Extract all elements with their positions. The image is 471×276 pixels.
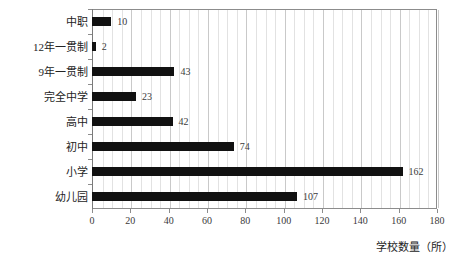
bar <box>92 17 111 26</box>
bar-value-label: 42 <box>179 117 189 127</box>
x-axis-title: 学校数量（所） <box>0 241 471 254</box>
x-axis-tick-label: 140 <box>353 215 368 226</box>
x-axis-tick <box>284 209 285 213</box>
bar <box>92 117 173 126</box>
y-axis-tick-label: 9年一贯制 <box>2 66 88 78</box>
bar-value-label: 2 <box>102 42 107 52</box>
x-axis-tick <box>130 209 131 213</box>
x-axis-tick-label: 80 <box>240 215 250 226</box>
y-axis-tick-label: 小学 <box>2 166 88 178</box>
bar-value-label: 162 <box>409 167 424 177</box>
x-axis-tick-label: 40 <box>164 215 174 226</box>
x-axis-tick-label: 60 <box>202 215 212 226</box>
y-axis-tick-label: 高中 <box>2 116 88 128</box>
gridline-major <box>438 10 439 208</box>
bar-value-label: 43 <box>180 67 190 77</box>
bar-row: 42 <box>92 117 437 127</box>
y-axis-tick <box>88 109 92 110</box>
bar-row: 2 <box>92 42 437 52</box>
bar-value-label: 74 <box>240 142 250 152</box>
y-axis-tick <box>88 184 92 185</box>
x-axis-tick <box>92 209 93 213</box>
bar-row: 43 <box>92 67 437 77</box>
y-axis-tick <box>88 134 92 135</box>
y-axis-labels: 中职12年一贯制9年一贯制完全中学高中初中小学幼儿园 <box>0 9 88 209</box>
y-axis-tick-label: 完全中学 <box>2 91 88 103</box>
bars-layer: 10243234274162107 <box>92 9 437 209</box>
x-axis-tick <box>399 209 400 213</box>
bar-row: 10 <box>92 17 437 27</box>
bar <box>92 42 96 51</box>
x-axis-tick <box>360 209 361 213</box>
x-axis-tick <box>322 209 323 213</box>
y-axis-tick-label: 幼儿园 <box>2 191 88 203</box>
y-axis-tick <box>88 159 92 160</box>
bar-row: 74 <box>92 142 437 152</box>
y-axis-tick <box>88 9 92 10</box>
x-axis-tick-label: 20 <box>125 215 135 226</box>
y-axis-tick <box>88 59 92 60</box>
bar-value-label: 107 <box>303 192 318 202</box>
y-axis-tick <box>88 84 92 85</box>
bar-value-label: 23 <box>142 92 152 102</box>
bar-row: 23 <box>92 92 437 102</box>
x-axis-tick-label: 100 <box>276 215 291 226</box>
x-axis-tick <box>169 209 170 213</box>
x-axis-tick-label: 0 <box>90 215 95 226</box>
bar-row: 107 <box>92 192 437 202</box>
x-axis-tick <box>207 209 208 213</box>
y-axis-tick-label: 中职 <box>2 16 88 28</box>
y-axis-tick-label: 初中 <box>2 141 88 153</box>
y-axis-tick-label: 12年一贯制 <box>2 41 88 53</box>
x-axis-tick <box>437 209 438 213</box>
bar-row: 162 <box>92 167 437 177</box>
bar <box>92 142 234 151</box>
x-axis-tick-label: 160 <box>391 215 406 226</box>
x-axis-tick <box>245 209 246 213</box>
bar-chart: 中职12年一贯制9年一贯制完全中学高中初中小学幼儿园 1024323427416… <box>0 0 471 276</box>
bar-value-label: 10 <box>117 17 127 27</box>
bar <box>92 167 403 176</box>
bar <box>92 192 297 201</box>
bar <box>92 92 136 101</box>
bar <box>92 67 174 76</box>
y-axis-tick <box>88 34 92 35</box>
x-axis-tick-label: 120 <box>315 215 330 226</box>
x-axis-tick-label: 180 <box>430 215 445 226</box>
